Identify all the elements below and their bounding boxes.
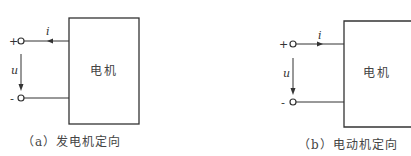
diagram-a: 电机 + i - u （a）发电机定向 [9, 18, 139, 149]
motor-box-a-label: 电机 [90, 64, 118, 78]
current-arrow-b [317, 42, 323, 47]
voltage-arrowhead-b [291, 88, 296, 95]
voltage-arrowhead-a [19, 84, 24, 91]
diagram-b: 电机 + i - u （b）电动机定向 [279, 21, 411, 152]
caption-a: （a）发电机定向 [22, 134, 121, 149]
minus-sign-a: - [10, 92, 14, 105]
caption-b: （b）电动机定向 [298, 137, 398, 152]
plus-sign-a: + [9, 35, 18, 48]
current-label-b: i [318, 29, 322, 42]
terminal-plus-b [290, 41, 296, 47]
current-arrow-a [47, 39, 53, 44]
voltage-label-a: u [11, 64, 18, 77]
plus-sign-b: + [279, 38, 288, 51]
terminal-minus-a [18, 95, 24, 101]
motor-orientation-diagram: 电机 + i - u （a）发电机定向 电机 + i - [0, 0, 411, 156]
terminal-plus-a [18, 38, 24, 44]
current-label-a: i [46, 25, 50, 38]
motor-box-b-label: 电机 [363, 66, 391, 80]
terminal-minus-b [290, 99, 296, 105]
voltage-label-b: u [283, 67, 290, 80]
minus-sign-b: - [281, 96, 285, 109]
